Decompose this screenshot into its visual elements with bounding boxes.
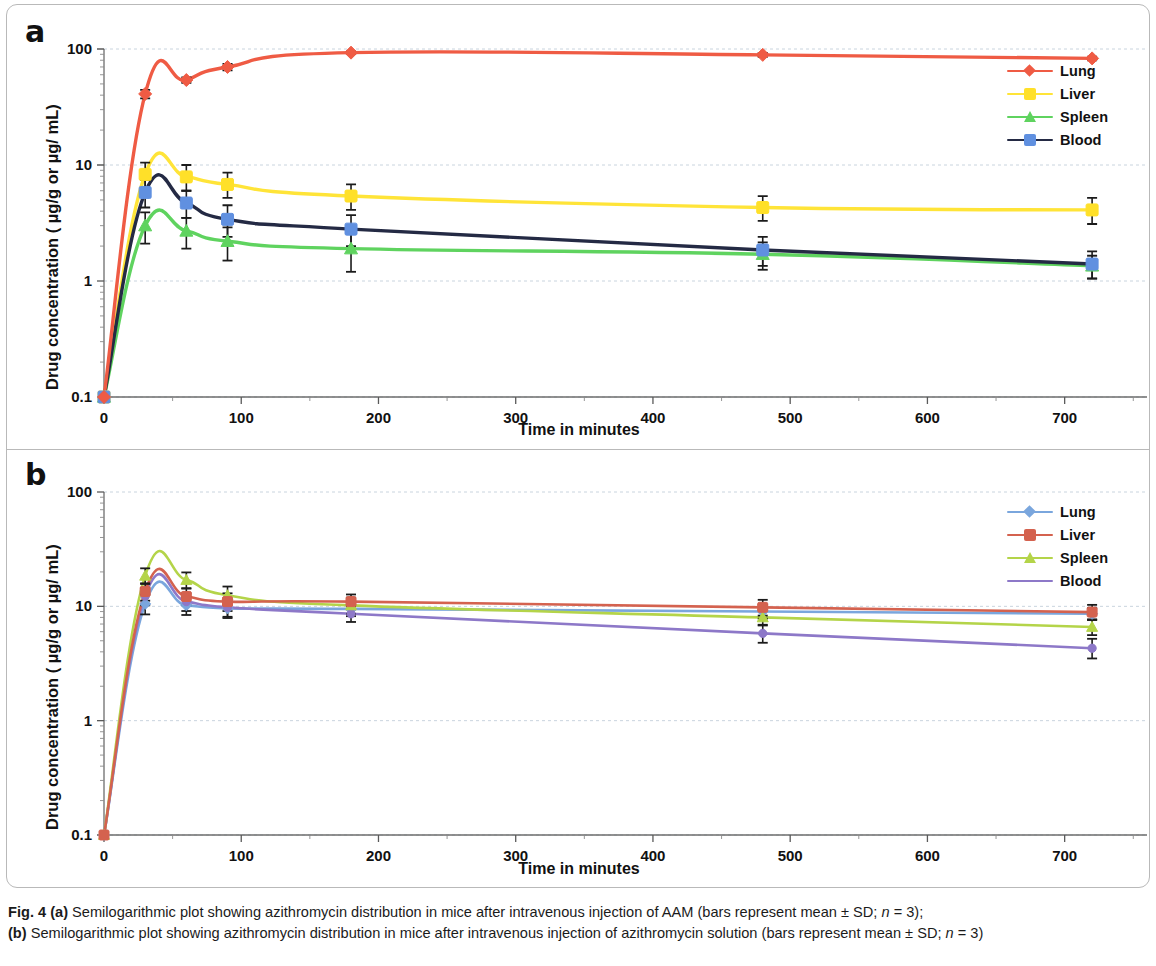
figure-caption: Fig. 4 (a) Semilogarithmic plot showing … [8, 902, 1148, 944]
svg-text:10: 10 [75, 156, 92, 173]
legend-square-icon [1024, 529, 1036, 541]
svg-text:1: 1 [84, 272, 92, 289]
legend-square-icon [1024, 88, 1036, 100]
legend-line-icon [1007, 580, 1053, 583]
legend-label: Spleen [1060, 110, 1108, 124]
panel-b-plot: 0.11101000100200300400500600700 [7, 450, 1150, 888]
legend-item-blood: Blood [1007, 569, 1108, 592]
legend-diamond-icon [1023, 505, 1036, 518]
legend-swatch-lung [1007, 64, 1053, 78]
panel-a-legend: LungLiverSpleenBlood [1007, 59, 1108, 151]
legend-square-icon [1024, 134, 1036, 146]
legend-label: Liver [1060, 528, 1095, 542]
legend-swatch-blood [1007, 574, 1053, 588]
caption-figure-number: Fig. 4 [8, 904, 46, 920]
caption-a-tag: (a) [50, 904, 68, 920]
svg-text:100: 100 [67, 40, 92, 57]
svg-text:1: 1 [84, 712, 92, 729]
legend-swatch-blood [1007, 133, 1053, 147]
figure-frame: a Drug concentration ( µg/g or µg/ mL) 0… [6, 4, 1150, 888]
legend-triangle-icon [1024, 552, 1036, 563]
panel-a-x-axis-label: Time in minutes [7, 421, 1150, 439]
panel-b: b Drug concentration ( µg/g or µg/ mL) 0… [7, 449, 1150, 887]
caption-b-n-value: = 3) [954, 925, 984, 941]
caption-a-n-value: = 3); [890, 904, 924, 920]
legend-label: Lung [1060, 505, 1096, 519]
caption-b-tag: (b) [8, 925, 27, 941]
caption-a-text: Semilogarithmic plot showing azithromyci… [68, 904, 881, 920]
panel-a-plot: 0.11101000100200300400500600700 [7, 5, 1150, 449]
legend-swatch-liver [1007, 528, 1053, 542]
legend-diamond-icon [1023, 64, 1036, 77]
caption-b-text: Semilogarithmic plot showing azithromyci… [27, 925, 946, 941]
legend-swatch-liver [1007, 87, 1053, 101]
legend-label: Liver [1060, 87, 1095, 101]
legend-item-blood: Blood [1007, 128, 1108, 151]
legend-item-liver: Liver [1007, 523, 1108, 546]
legend-item-lung: Lung [1007, 59, 1108, 82]
legend-swatch-spleen [1007, 551, 1053, 565]
legend-item-spleen: Spleen [1007, 105, 1108, 128]
figure-page: a Drug concentration ( µg/g or µg/ mL) 0… [0, 0, 1156, 966]
svg-text:0.1: 0.1 [71, 388, 92, 405]
svg-text:0.1: 0.1 [71, 826, 92, 843]
caption-b-n: n [946, 925, 954, 941]
legend-item-spleen: Spleen [1007, 546, 1108, 569]
legend-label: Lung [1060, 64, 1096, 78]
caption-a-n: n [881, 904, 889, 920]
panel-b-legend: LungLiverSpleenBlood [1007, 500, 1108, 592]
panel-a: a Drug concentration ( µg/g or µg/ mL) 0… [7, 5, 1150, 449]
svg-text:10: 10 [75, 597, 92, 614]
legend-label: Blood [1060, 133, 1102, 147]
legend-triangle-icon [1024, 111, 1036, 122]
panel-b-x-axis-label: Time in minutes [7, 860, 1150, 878]
legend-label: Spleen [1060, 551, 1108, 565]
legend-label: Blood [1060, 574, 1102, 588]
legend-item-liver: Liver [1007, 82, 1108, 105]
legend-swatch-spleen [1007, 110, 1053, 124]
svg-text:100: 100 [67, 483, 92, 500]
legend-swatch-lung [1007, 505, 1053, 519]
legend-item-lung: Lung [1007, 500, 1108, 523]
